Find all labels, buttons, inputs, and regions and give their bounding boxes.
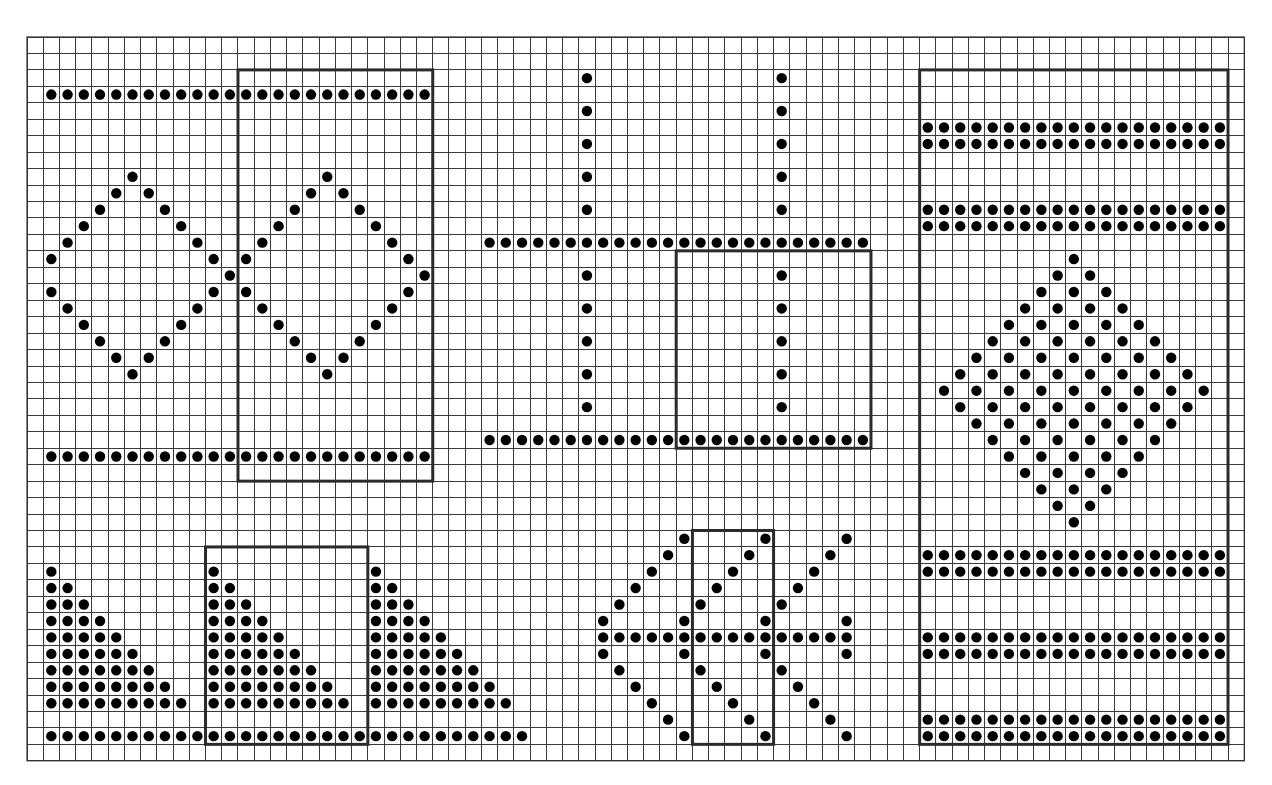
stitch-dot [793,682,803,692]
stitch-dot [95,89,105,99]
stitch-dot [582,172,592,182]
stitch-dot [176,451,186,461]
stitch-dot [712,632,722,642]
stitch-dot [419,270,429,280]
stitch-dot [1117,303,1127,313]
stitch-dot [1069,205,1079,215]
stitch-dot [712,682,722,692]
stitch-dot [679,237,689,247]
stitch-dot [95,336,105,346]
stitch-dot [371,649,381,659]
stitch-dot [939,714,949,724]
stitch-dot [160,336,170,346]
stitch-dot [419,731,429,741]
stitch-dot [760,237,770,247]
stitch-dot [501,731,511,741]
stitch-dot [809,237,819,247]
stitch-dot [1004,451,1014,461]
stitch-dot [1101,205,1111,215]
stitch-dot [111,731,121,741]
stitch-dot [225,682,235,692]
stitch-dot [1004,550,1014,560]
stitch-dot [582,73,592,83]
stitch-dot [1052,303,1062,313]
stitch-dot [1182,122,1192,132]
stitch-dot [939,649,949,659]
stitch-dot [841,237,851,247]
stitch-dot [160,205,170,215]
stitch-dot [1036,385,1046,395]
stitch-dot [1117,468,1127,478]
stitch-dot [1036,287,1046,297]
stitch-dot [841,435,851,445]
stitch-dot [192,303,202,313]
stitch-dot [1020,336,1030,346]
stitch-dot [1069,484,1079,494]
stitch-dot [1101,731,1111,741]
stitch-dot [192,89,202,99]
stitch-dot [630,682,640,692]
stitch-dot [225,616,235,626]
stitch-dot [1004,320,1014,330]
stitch-dot [322,369,332,379]
stitch-dot [1085,566,1095,576]
stitch-dot [955,714,965,724]
stitch-dot [273,731,283,741]
stitch-dot [387,599,397,609]
stitch-dot [95,616,105,626]
stitch-dot [144,353,154,363]
stitch-dot [1085,303,1095,313]
stitch-dot [744,237,754,247]
stitch-dot [387,632,397,642]
stitch-dot [987,714,997,724]
stitch-dot [987,205,997,215]
stitch-dot [1004,353,1014,363]
stitch-dot [777,665,787,675]
stitch-dot [1036,484,1046,494]
stitch-dot [338,698,348,708]
stitch-dot [95,698,105,708]
stitch-dot [598,649,608,659]
stitch-dot [1101,287,1111,297]
stitch-dot [1020,402,1030,412]
stitch-dot [987,369,997,379]
stitch-dot [484,237,494,247]
stitch-dot [1198,550,1208,560]
stitch-dot [1085,336,1095,346]
stitch-dot [1036,221,1046,231]
stitch-dot [225,89,235,99]
stitch-dot [598,237,608,247]
stitch-dot [1134,714,1144,724]
stitch-dot [225,665,235,675]
stitch-dot [1004,122,1014,132]
stitch-dot [1215,122,1225,132]
stitch-dot [841,731,851,741]
stitch-dot [1052,270,1062,280]
stitch-dot [144,682,154,692]
stitch-dot [549,435,559,445]
stitch-dot [1215,550,1225,560]
stitch-dot [1134,139,1144,149]
stitch-dot [79,451,89,461]
stitch-dot [79,599,89,609]
stitch-dot [46,287,56,297]
stitch-dot [46,698,56,708]
stitch-dot [176,698,186,708]
stitch-dot [1004,205,1014,215]
stitch-dot [62,89,72,99]
stitch-dot [79,649,89,659]
stitch-dot [371,320,381,330]
stitch-dot [225,649,235,659]
stitch-dot [127,698,137,708]
stitch-dot [582,237,592,247]
stitch-dot [1182,632,1192,642]
stitch-dot [825,435,835,445]
stitch-dot [257,303,267,313]
stitch-dot [1134,221,1144,231]
stitch-dot [192,451,202,461]
stitch-dot [1052,336,1062,346]
stitch-dot [1117,566,1127,576]
stitch-dot [777,139,787,149]
stitch-dot [62,682,72,692]
stitch-dot [127,89,137,99]
